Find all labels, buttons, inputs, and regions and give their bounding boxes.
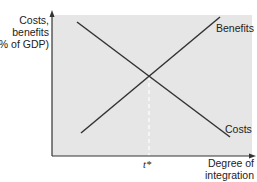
y-axis-label: Costs, benefits (% of GDP) <box>0 14 49 50</box>
costs-label: Costs <box>225 123 252 135</box>
y-axis-label-line: (% of GDP) <box>0 38 49 50</box>
x-axis-label-line: integration <box>205 169 254 181</box>
y-axis-arrow-icon <box>50 10 55 17</box>
plot-area <box>52 15 252 156</box>
y-axis-label-line: Costs, <box>0 14 49 26</box>
y-axis-label-line: benefits <box>0 26 49 38</box>
t-star-label: t* <box>143 159 151 170</box>
benefits-label: Benefits <box>216 22 254 34</box>
x-axis-label: Degree of integration <box>205 157 254 181</box>
x-axis-label-line: Degree of <box>205 157 254 169</box>
cost-benefit-chart: Costs, benefits (% of GDP) Benefits Cost… <box>0 0 257 182</box>
